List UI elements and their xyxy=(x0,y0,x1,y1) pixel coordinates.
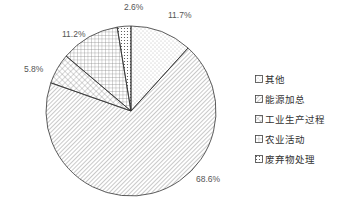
swatch-icon xyxy=(255,75,263,83)
legend-label: 能源加总 xyxy=(265,92,305,106)
legend-item-other: 其他 xyxy=(255,69,325,89)
slice-percent-label: 11.2% xyxy=(62,29,86,39)
swatch-icon xyxy=(255,95,263,103)
legend-label: 农业活动 xyxy=(265,132,305,146)
swatch-icon xyxy=(255,155,263,163)
swatch-icon xyxy=(255,115,263,123)
legend: 其他 能源加总 工业生产过程 农业活动 废弃物处理 xyxy=(255,69,325,169)
legend-item-industrial: 工业生产过程 xyxy=(255,109,325,129)
legend-item-waste: 废弃物处理 xyxy=(255,149,325,169)
legend-label: 废弃物处理 xyxy=(265,152,315,166)
legend-label: 其他 xyxy=(265,72,285,86)
slice-percent-label: 2.6% xyxy=(124,2,144,12)
legend-item-energy: 能源加总 xyxy=(255,89,325,109)
slice-percent-label: 68.6% xyxy=(196,174,221,184)
slice-percent-label: 5.8% xyxy=(24,64,44,74)
swatch-icon xyxy=(255,135,263,143)
legend-item-agriculture: 农业活动 xyxy=(255,129,325,149)
slice-percent-label: 11.7% xyxy=(168,10,192,20)
legend-label: 工业生产过程 xyxy=(265,112,325,126)
